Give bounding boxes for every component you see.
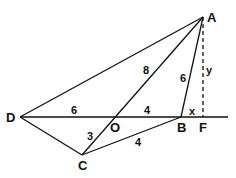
geometry-diagram: A D O B F C 6 4 8 6 3 4 x y: [0, 0, 236, 178]
label-point-f: F: [199, 120, 207, 135]
label-do: 6: [71, 104, 77, 116]
label-ob: 4: [144, 104, 151, 116]
label-oc: 3: [87, 130, 93, 142]
segment-da: [20, 17, 203, 117]
label-af-y: y: [206, 64, 213, 76]
label-point-d: D: [6, 110, 15, 125]
label-point-o: O: [110, 120, 120, 135]
label-point-c: C: [78, 158, 88, 173]
label-point-b: B: [177, 120, 186, 135]
label-cb: 4: [135, 136, 142, 148]
segment-cb: [82, 117, 181, 155]
label-ao: 8: [143, 64, 149, 76]
label-bf-x: x: [189, 105, 196, 117]
label-point-a: A: [207, 10, 217, 25]
label-ab: 6: [180, 72, 186, 84]
segment-dc: [20, 117, 82, 155]
segment-ba: [181, 17, 203, 117]
